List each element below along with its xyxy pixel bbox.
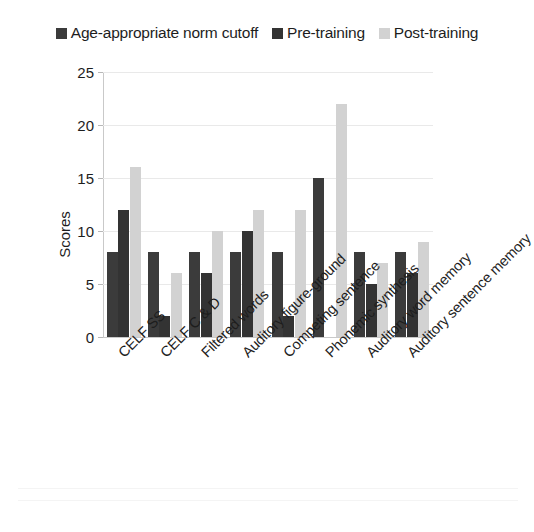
- bar: [159, 316, 170, 337]
- bar: [107, 252, 118, 337]
- bar: [283, 316, 294, 337]
- x-axis-line: [103, 337, 433, 338]
- bar-group: [392, 72, 433, 337]
- y-axis-tick-label: 0: [86, 329, 94, 346]
- bar-chart: Scores 0510152025 CELF SSCELF C & DFilte…: [0, 48, 534, 532]
- bar: [130, 167, 141, 337]
- bar: [201, 273, 212, 337]
- scan-artifact: [18, 488, 518, 489]
- bar-group: [268, 72, 309, 337]
- bar: [171, 273, 182, 337]
- bar: [295, 210, 306, 337]
- bar: [418, 242, 429, 337]
- legend-label-cutoff: Age-appropriate norm cutoff: [71, 24, 258, 42]
- y-axis-tick-label: 5: [86, 276, 94, 293]
- chart-legend: Age-appropriate norm cutoff Pre-training…: [0, 18, 534, 48]
- y-axis-tick-label: 25: [77, 64, 94, 81]
- y-axis-tick: [98, 337, 103, 338]
- y-axis-tick-label: 10: [77, 223, 94, 240]
- legend-label-post-training: Post-training: [394, 24, 478, 42]
- bar: [272, 252, 283, 337]
- bar: [118, 210, 129, 337]
- legend-item-post-training: Post-training: [379, 24, 478, 42]
- bar: [336, 104, 347, 337]
- bar: [148, 252, 159, 337]
- legend-item-pre-training: Pre-training: [272, 24, 365, 42]
- bar: [377, 263, 388, 337]
- bar: [189, 252, 200, 337]
- bar-group: [309, 72, 350, 337]
- bar: [212, 231, 223, 337]
- bar-group: [144, 72, 185, 337]
- bar: [253, 210, 264, 337]
- legend-swatch-post-training: [379, 28, 390, 39]
- y-axis-tick-label: 20: [77, 117, 94, 134]
- bar: [242, 231, 253, 337]
- y-axis-title: Scores: [56, 195, 73, 275]
- bar: [395, 252, 406, 337]
- bar: [230, 252, 241, 337]
- bar: [366, 284, 377, 337]
- legend-swatch-cutoff: [56, 28, 67, 39]
- legend-label-pre-training: Pre-training: [287, 24, 365, 42]
- bar-group: [186, 72, 227, 337]
- bar-group: [351, 72, 392, 337]
- legend-swatch-pre-training: [272, 28, 283, 39]
- bar-group: [103, 72, 144, 337]
- y-axis-tick-label: 15: [77, 170, 94, 187]
- bar-group: [227, 72, 268, 337]
- bar: [313, 178, 324, 337]
- plot-area: 0510152025: [103, 72, 433, 337]
- scan-artifact: [18, 500, 518, 501]
- bar: [407, 273, 418, 337]
- legend-item-cutoff: Age-appropriate norm cutoff: [56, 24, 258, 42]
- bar: [354, 252, 365, 337]
